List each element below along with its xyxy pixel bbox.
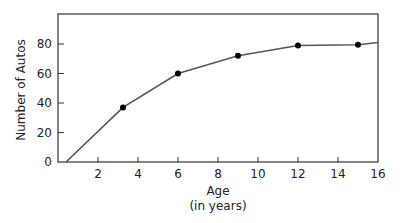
data-point-marker [355, 42, 361, 48]
y-tick-label: 80 [37, 37, 52, 51]
axis-ticks: 246810121416020406080 [37, 37, 386, 181]
x-tick-label: 10 [250, 167, 265, 181]
x-tick-label: 8 [214, 167, 222, 181]
data-series [66, 42, 378, 162]
y-tick-label: 20 [37, 126, 52, 140]
data-point-marker [295, 42, 301, 48]
y-axis-label: Number of Autos [14, 39, 28, 141]
plot-border [58, 14, 378, 162]
x-tick-label: 2 [94, 167, 102, 181]
plot-frame [58, 14, 378, 162]
data-line [66, 43, 378, 163]
x-tick-label: 14 [330, 167, 345, 181]
x-tick-label: 12 [290, 167, 305, 181]
chart-container: 246810121416020406080 Number of Autos Ag… [0, 0, 404, 223]
x-axis-label: Age [206, 184, 229, 198]
line-chart: 246810121416020406080 Number of Autos Ag… [0, 0, 404, 223]
data-point-marker [120, 104, 126, 110]
x-tick-label: 4 [134, 167, 142, 181]
y-tick-label: 60 [37, 67, 52, 81]
data-point-marker [235, 53, 241, 59]
y-tick-label: 40 [37, 96, 52, 110]
y-tick-label: 0 [44, 155, 52, 169]
data-point-marker [175, 71, 181, 77]
x-tick-label: 6 [174, 167, 182, 181]
x-tick-label: 16 [370, 167, 385, 181]
x-axis-sublabel: (in years) [189, 199, 246, 213]
